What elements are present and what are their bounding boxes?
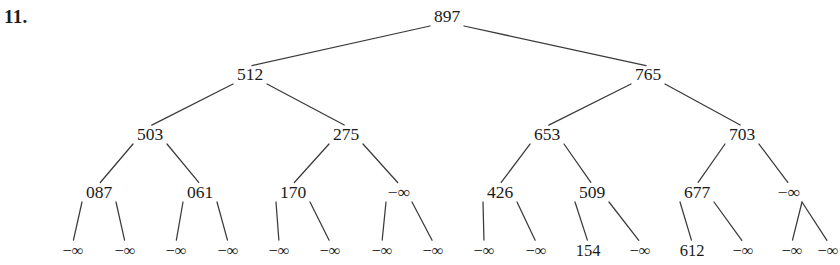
tree-edge — [759, 144, 788, 182]
tree-internal-node: 087 — [86, 182, 113, 202]
tree-edge-layer — [73, 26, 826, 240]
tree-edge — [714, 202, 742, 240]
tree-edge — [549, 84, 631, 125]
tree-edge — [464, 26, 646, 66]
tree-edge — [167, 144, 199, 182]
tree-internal-node: 509 — [579, 182, 606, 202]
tree-node-layer: 897512765503275653703087061170−∞42650967… — [62, 6, 838, 260]
tree-edge — [276, 202, 279, 240]
tree-edge — [310, 202, 329, 240]
tree-leaf-node: −∞ — [114, 241, 135, 260]
tree-leaf-node: −∞ — [371, 241, 392, 260]
tree-edge — [294, 144, 329, 183]
tree-edge — [609, 202, 639, 240]
tree-edge — [100, 144, 133, 182]
tree-internal-node: 677 — [684, 182, 711, 202]
tree-leaf-node: 612 — [680, 241, 705, 260]
tree-edge — [252, 26, 430, 66]
tree-edge — [517, 202, 535, 240]
tree-edge — [698, 144, 725, 182]
tree-leaf-node: −∞ — [62, 241, 83, 260]
tree-edge — [792, 202, 802, 240]
tree-edge — [363, 144, 398, 183]
tree-internal-node: 170 — [280, 182, 307, 202]
tree-edge — [501, 144, 530, 182]
tree-leaf-node: −∞ — [217, 241, 238, 260]
tree-edge — [73, 202, 82, 240]
binary-tree-figure: 897512765503275653703087061170−∞42650967… — [0, 0, 840, 265]
tree-leaf-node: 154 — [576, 241, 601, 260]
tree-leaf-node: −∞ — [781, 241, 802, 260]
tree-diagram-page: 11. 897512765503275653703087061170−∞4265… — [0, 0, 840, 265]
tree-edge — [802, 202, 827, 240]
tree-edge — [176, 202, 183, 240]
tree-leaf-node: −∞ — [165, 241, 186, 260]
tree-edge — [575, 202, 587, 240]
tree-leaf-node: −∞ — [629, 241, 650, 260]
tree-edge — [382, 202, 386, 240]
tree-internal-node: 503 — [137, 124, 164, 144]
tree-edge — [412, 202, 432, 240]
tree-leaf-node: −∞ — [817, 241, 838, 260]
tree-leaf-node: −∞ — [422, 241, 443, 260]
tree-internal-node: −∞ — [388, 182, 410, 202]
tree-edge — [483, 202, 484, 240]
tree-edge — [217, 202, 227, 240]
tree-edge — [564, 144, 591, 182]
tree-edge — [267, 84, 344, 125]
tree-edge — [116, 202, 125, 240]
tree-internal-node: 512 — [237, 64, 263, 84]
tree-edge — [680, 202, 691, 240]
tree-leaf-node: −∞ — [268, 241, 289, 260]
tree-internal-node: 061 — [187, 182, 213, 202]
tree-internal-node: 703 — [729, 124, 756, 144]
tree-internal-node: 275 — [333, 124, 360, 144]
tree-internal-node: 426 — [487, 182, 514, 202]
tree-leaf-node: −∞ — [525, 241, 546, 260]
tree-internal-node: 897 — [434, 6, 461, 26]
tree-internal-node: 653 — [534, 124, 561, 144]
tree-leaf-node: −∞ — [319, 241, 340, 260]
tree-internal-node: 765 — [635, 64, 662, 84]
tree-edge — [152, 84, 233, 125]
tree-edge — [665, 84, 740, 125]
tree-leaf-node: −∞ — [732, 241, 753, 260]
tree-internal-node: −∞ — [778, 182, 800, 202]
tree-leaf-node: −∞ — [473, 241, 494, 260]
